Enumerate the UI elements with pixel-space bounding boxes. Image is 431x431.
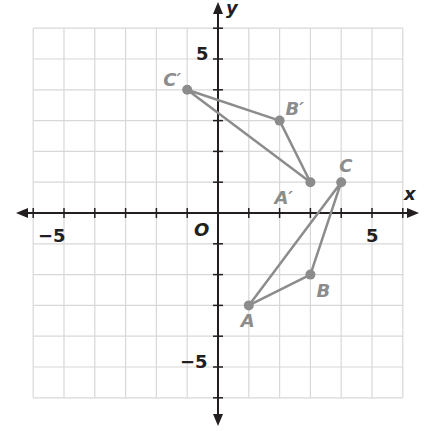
vertex-label: A bbox=[239, 310, 255, 331]
y-tick-label: 5 bbox=[196, 43, 209, 64]
coordinate-plane: xyO−555−5ABCA′B′C′ bbox=[0, 0, 431, 431]
vertex-point bbox=[275, 116, 285, 126]
x-tick-label: 5 bbox=[366, 225, 379, 246]
vertex-label: A′ bbox=[272, 187, 293, 208]
vertex-point bbox=[305, 177, 315, 187]
vertex-point bbox=[182, 85, 192, 95]
x-axis-label: x bbox=[403, 183, 417, 204]
vertex-label: C bbox=[339, 155, 353, 176]
vertex-point bbox=[336, 177, 346, 187]
y-arrow-down-icon bbox=[213, 414, 223, 426]
origin-label: O bbox=[194, 219, 209, 240]
vertex-point bbox=[244, 300, 254, 310]
vertex-point bbox=[305, 270, 315, 280]
y-tick-label: −5 bbox=[180, 351, 208, 372]
x-tick-label: −5 bbox=[38, 225, 66, 246]
x-arrow-left-icon bbox=[16, 208, 28, 218]
vertex-label: B′ bbox=[286, 98, 305, 119]
x-arrow-right-icon bbox=[407, 208, 419, 218]
y-arrow-up-icon bbox=[213, 2, 223, 14]
vertex-label: B bbox=[316, 280, 330, 301]
vertex-label: C′ bbox=[163, 69, 181, 90]
y-axis-label: y bbox=[226, 0, 239, 18]
